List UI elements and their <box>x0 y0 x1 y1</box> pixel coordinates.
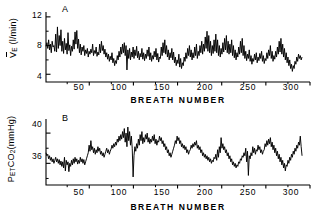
panel-a-xtick-300: 300 <box>276 82 306 92</box>
panel-b-xtick-150: 150 <box>147 187 177 197</box>
panel-b-trace-svg <box>46 121 310 183</box>
panel-b-plot-area <box>46 121 310 183</box>
panel-b-xtick-200: 200 <box>190 187 220 197</box>
panel-a-ytick-8: 8 <box>20 40 42 50</box>
panel-a-xtick-150: 150 <box>147 82 177 92</box>
panel-b-xtick-300: 300 <box>276 187 306 197</box>
panel-b-ytick-36: 36 <box>20 151 42 161</box>
panel-a-trace-svg <box>46 14 310 80</box>
panel-a-xtick-100: 100 <box>104 82 134 92</box>
panel-a-ytick-12: 12 <box>20 10 42 20</box>
panel-a-x-axis-title: BREATH NUMBER <box>46 95 310 105</box>
panel-a-xtick-50: 50 <box>64 82 94 92</box>
panel-a-xtick-200: 200 <box>190 82 220 92</box>
panel-a-plot-area <box>46 14 310 80</box>
panel-b-y-axis-label: PETCO2(mmHg) <box>2 95 20 203</box>
panel-b-xtick-100: 100 <box>104 187 134 197</box>
panel-a-xtick-250: 250 <box>233 82 263 92</box>
panel-b: PETCO2(mmHg) B 40 36 50 100 150 200 250 … <box>0 107 327 217</box>
panel-a-ytick-4: 4 <box>20 71 42 81</box>
v-dot-symbol: V <box>8 52 18 58</box>
panel-b-xtick-250: 250 <box>233 187 263 197</box>
panel-a-letter: A <box>62 4 68 14</box>
panel-b-xtick-50: 50 <box>64 187 94 197</box>
panel-b-ytick-40: 40 <box>20 119 42 129</box>
figure-canvas: VE (l/min) A 12 8 4 50 100 150 200 250 3… <box>0 0 327 217</box>
panel-b-x-axis-title: BREATH NUMBER <box>46 202 310 212</box>
panel-a: VE (l/min) A 12 8 4 50 100 150 200 250 3… <box>0 0 327 110</box>
